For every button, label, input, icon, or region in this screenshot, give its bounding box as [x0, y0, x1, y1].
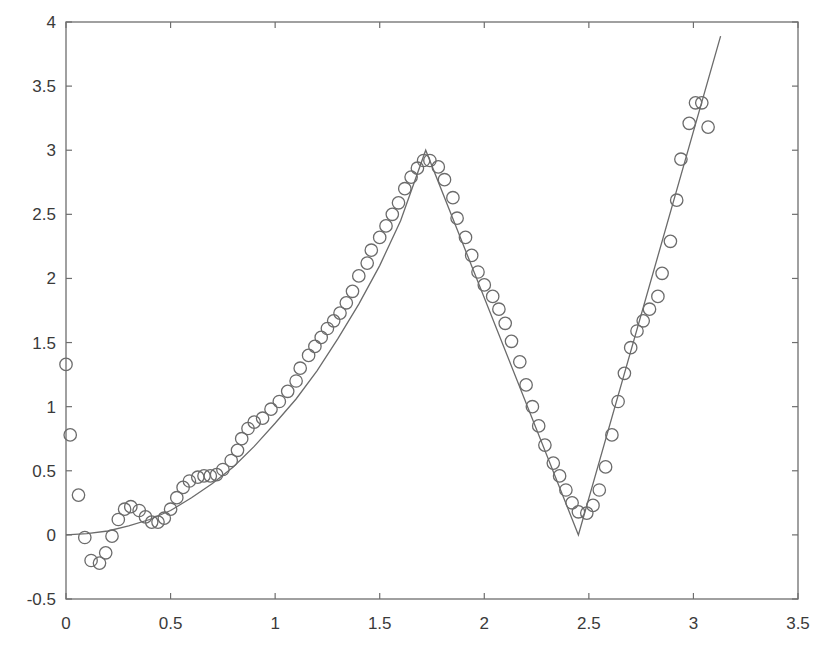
scatter-points — [60, 97, 715, 570]
data-point-marker — [459, 231, 471, 243]
data-point-marker — [380, 220, 392, 232]
data-point-marker — [328, 315, 340, 327]
data-point-marker — [599, 461, 611, 473]
data-point-marker — [72, 489, 84, 501]
data-point-marker — [321, 322, 333, 334]
data-point-marker — [361, 257, 373, 269]
y-tick-label: 3.5 — [32, 77, 56, 96]
data-point-marker — [566, 497, 578, 509]
data-point-marker — [294, 362, 306, 374]
data-point-marker — [520, 379, 532, 391]
data-point-marker — [587, 499, 599, 511]
data-point-marker — [493, 303, 505, 315]
data-point-marker — [593, 484, 605, 496]
data-point-marker — [572, 506, 584, 518]
data-point-marker — [664, 235, 676, 247]
x-tick-label: 1.5 — [368, 614, 392, 633]
data-point-marker — [353, 270, 365, 282]
data-point-marker — [374, 231, 386, 243]
data-point-marker — [533, 420, 545, 432]
fit-line — [66, 36, 721, 535]
data-point-marker — [514, 356, 526, 368]
y-tick-label: 4 — [47, 13, 56, 32]
data-point-marker — [487, 290, 499, 302]
data-point-marker — [340, 297, 352, 309]
data-point-marker — [656, 267, 668, 279]
y-tick-label: -0.5 — [27, 590, 56, 609]
data-point-marker — [392, 197, 404, 209]
data-point-marker — [671, 194, 683, 206]
data-point-marker — [447, 192, 459, 204]
data-point-marker — [290, 375, 302, 387]
y-tick-label: 3 — [47, 141, 56, 160]
data-point-marker — [652, 290, 664, 302]
data-point-marker — [265, 403, 277, 415]
data-point-marker — [273, 395, 285, 407]
data-point-marker — [478, 279, 490, 291]
data-point-marker — [560, 484, 572, 496]
data-point-marker — [346, 285, 358, 297]
data-point-marker — [309, 340, 321, 352]
data-point-marker — [302, 349, 314, 361]
y-tick-label: 0 — [47, 526, 56, 545]
y-tick-label: 2 — [47, 269, 56, 288]
data-point-marker — [643, 303, 655, 315]
x-tick-label: 2.5 — [577, 614, 601, 633]
chart: 00.511.522.533.5 -0.500.511.522.533.54 — [0, 0, 814, 645]
y-axis: -0.500.511.522.533.54 — [27, 13, 798, 609]
data-point-marker — [702, 121, 714, 133]
data-point-marker — [365, 244, 377, 256]
data-point-marker — [683, 117, 695, 129]
data-point-marker — [505, 335, 517, 347]
data-point-marker — [432, 161, 444, 173]
data-point-marker — [499, 317, 511, 329]
x-axis: 00.511.522.533.5 — [61, 22, 810, 633]
y-tick-label: 0.5 — [32, 462, 56, 481]
x-tick-label: 3.5 — [786, 614, 810, 633]
data-point-marker — [164, 503, 176, 515]
x-tick-label: 0.5 — [159, 614, 183, 633]
y-tick-label: 1.5 — [32, 334, 56, 353]
data-point-marker — [231, 444, 243, 456]
data-point-marker — [399, 183, 411, 195]
data-point-marker — [282, 385, 294, 397]
data-point-marker — [438, 174, 450, 186]
x-tick-label: 1 — [270, 614, 279, 633]
fit-curve — [66, 36, 721, 535]
x-tick-label: 0 — [61, 614, 70, 633]
data-point-marker — [547, 457, 559, 469]
chart-svg: 00.511.522.533.5 -0.500.511.522.533.54 — [0, 0, 814, 645]
y-tick-label: 1 — [47, 398, 56, 417]
y-tick-label: 2.5 — [32, 205, 56, 224]
data-point-marker — [386, 208, 398, 220]
data-point-marker — [85, 554, 97, 566]
data-point-marker — [581, 507, 593, 519]
x-tick-label: 3 — [689, 614, 698, 633]
data-point-marker — [315, 331, 327, 343]
data-point-marker — [106, 530, 118, 542]
data-point-marker — [100, 547, 112, 559]
x-tick-label: 2 — [480, 614, 489, 633]
